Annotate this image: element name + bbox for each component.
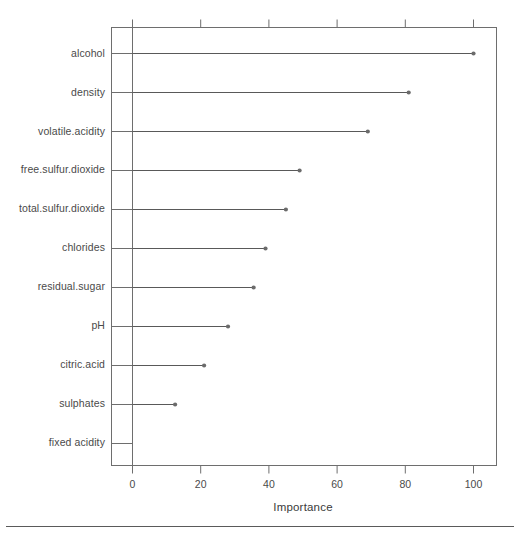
x-tick-label-20: 20 (195, 478, 207, 490)
data-series-importance (133, 51, 476, 406)
plot-canvas (0, 0, 520, 540)
data-point-ph (133, 324, 231, 328)
bottom-axis-ticks (133, 466, 474, 474)
x-tick-label-40: 40 (263, 478, 275, 490)
data-point-alcohol (133, 51, 476, 55)
data-point-density (133, 90, 411, 94)
x-tick-label-0: 0 (130, 478, 136, 490)
top-axis-ticks (133, 20, 474, 28)
x-tick-label-60: 60 (331, 478, 343, 490)
importance-plot-figure: alcohol density volatile.acidity free.su… (0, 0, 520, 540)
x-tick-label-100: 100 (465, 478, 483, 490)
data-point-residual-sugar (133, 285, 256, 289)
x-tick-label-80: 80 (399, 478, 411, 490)
data-point-total-sulfur-dioxide (133, 207, 289, 211)
plot-frame (112, 28, 497, 466)
y-axis-ticks (112, 54, 133, 444)
data-point-sulphates (133, 402, 178, 406)
data-point-volatile-acidity (133, 129, 370, 133)
data-point-chlorides (133, 246, 268, 250)
data-point-citric-acid (133, 363, 207, 367)
caption-divider (6, 526, 514, 527)
x-axis-title: Importance (273, 501, 333, 513)
data-point-free-sulfur-dioxide (133, 168, 302, 172)
